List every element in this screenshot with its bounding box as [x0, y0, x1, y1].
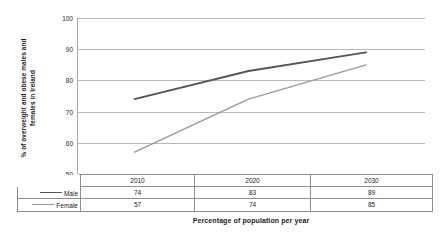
table-cell-female-2020: 74	[195, 199, 311, 211]
y-tick-60: 60	[52, 139, 73, 146]
series-lines	[78, 18, 426, 174]
chart-figure: % of overweight and obese males and fema…	[0, 0, 446, 233]
table-header-2020: 2020	[195, 175, 311, 187]
y-axis-title-line2: females in Ireland	[29, 70, 36, 126]
data-table: 2010 2020 2030 Male 74 83 89 Female 57 7…	[17, 174, 433, 212]
y-tick-70: 70	[52, 108, 73, 115]
y-tick-100: 100	[52, 15, 73, 22]
table-cell-female-2030: 85	[311, 199, 433, 211]
legend-label-male: Male	[64, 190, 78, 197]
table-header-row: 2010 2020 2030	[18, 175, 433, 187]
y-axis-title-line1: % of overweight and obese males and	[20, 39, 27, 158]
table-cell-male-2030: 89	[311, 187, 433, 199]
line-swatch-male-icon	[40, 192, 62, 193]
y-tick-90: 90	[52, 46, 73, 53]
table-corner-cell	[18, 175, 81, 187]
legend-item-female[interactable]: Female	[18, 199, 81, 211]
line-series-male	[135, 52, 367, 99]
legend-label-female: Female	[56, 202, 78, 209]
y-tick-80: 80	[52, 77, 73, 84]
table-header-2030: 2030	[311, 175, 433, 187]
plot-area	[77, 18, 425, 174]
x-axis-title: Percentage of population per year	[77, 217, 425, 224]
y-axis-title: % of overweight and obese males and fema…	[20, 18, 46, 178]
line-swatch-female-icon	[32, 204, 54, 205]
line-series-female	[135, 65, 367, 152]
table-cell-male-2010: 74	[81, 187, 195, 199]
table-header-2010: 2010	[81, 175, 195, 187]
table-cell-male-2020: 83	[195, 187, 311, 199]
legend-item-male[interactable]: Male	[18, 187, 81, 199]
table-row-male: Male 74 83 89	[18, 187, 433, 199]
table-cell-female-2010: 57	[81, 199, 195, 211]
table-row-female: Female 57 74 85	[18, 199, 433, 211]
